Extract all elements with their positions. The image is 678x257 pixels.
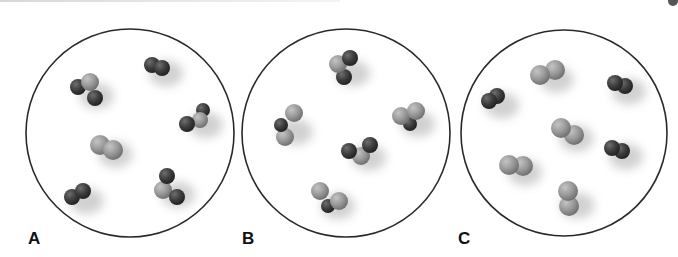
molecule-dark-diatomic (607, 75, 646, 105)
molecule-light-dark-light (311, 182, 355, 219)
molecule-dark-diatomic (481, 88, 519, 119)
panel-c-graphic (461, 30, 667, 236)
panel-a-graphic (26, 29, 234, 237)
dark-atom (169, 189, 185, 205)
dark-atom (154, 60, 170, 76)
molecule-dark-light-dark (179, 103, 223, 138)
panel-b-graphic (242, 29, 450, 237)
light-atom (558, 181, 578, 201)
molecule-dark-diatomic (64, 183, 104, 214)
panel-label-a: A (28, 230, 40, 247)
molecule-dark-light-dark (70, 73, 114, 109)
molecule-light-light-dark (392, 102, 435, 137)
dark-atom (274, 118, 288, 132)
molecule-light-diatomic (558, 181, 595, 219)
panel-label-c: C (458, 230, 470, 247)
molecule-dark-diatomic (144, 57, 183, 87)
light-atom (285, 104, 303, 122)
light-atom (407, 102, 425, 120)
molecule-light-diatomic (90, 135, 133, 168)
dark-atom (342, 50, 358, 66)
molecule-dark-diatomic (604, 140, 643, 170)
light-atom (81, 73, 99, 91)
molecule-light-dark-dark (329, 50, 370, 86)
dark-atom (481, 93, 497, 109)
molecule-light-dark-light (274, 104, 313, 146)
dark-atom (179, 116, 195, 132)
molecule-dark-light-dark (154, 168, 195, 208)
molecule-light-diatomic (530, 60, 574, 93)
molecule-light-diatomic (551, 118, 594, 152)
light-atom (311, 182, 329, 200)
molecule-light-diatomic (499, 155, 542, 186)
dark-atom (362, 137, 378, 153)
light-atom (551, 118, 571, 138)
dark-atom (75, 183, 91, 199)
dark-atom (607, 75, 623, 91)
light-atom (530, 65, 550, 85)
dark-atom (604, 140, 620, 156)
molecule-dark-light-dark (341, 137, 386, 171)
dark-atom (341, 143, 357, 159)
light-atom (103, 140, 123, 160)
panel-label-b: B (242, 230, 254, 247)
light-atom (330, 192, 348, 210)
dark-atom (87, 90, 103, 106)
dark-atom (159, 168, 175, 184)
light-atom (499, 155, 519, 175)
